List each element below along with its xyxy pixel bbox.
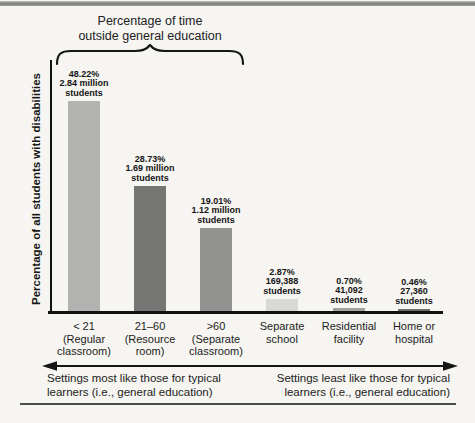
- curly-brace-path: [57, 45, 243, 64]
- bar-category-line: < 21: [57, 320, 111, 333]
- bar-value-line: students: [191, 216, 240, 226]
- bar-value-line: students: [59, 89, 108, 99]
- bar-category-label-4: Separateschool: [260, 320, 305, 345]
- bar-1: [68, 101, 100, 311]
- footer-right-line2: learners (i.e., general education): [277, 386, 450, 400]
- footer-caption-right: Settings least like those for typical le…: [277, 372, 450, 399]
- bar-2: [134, 186, 166, 311]
- bar-6: [398, 309, 430, 311]
- bar-value-label-6: 0.46%27,360students: [395, 278, 433, 307]
- bar-category-line: (Resource: [125, 333, 176, 346]
- brace-annotation-line1: Percentage of time: [78, 14, 221, 29]
- bar-value-line: students: [330, 296, 368, 306]
- bar-category-line: classroom): [189, 345, 243, 358]
- curly-brace: [55, 44, 245, 66]
- bar-category-line: 21–60: [125, 320, 176, 333]
- chart-figure: Percentage of time outside general educa…: [0, 0, 475, 423]
- bar-category-line: >60: [189, 320, 243, 333]
- bar-category-line: Residential: [322, 320, 376, 333]
- bar-value-label-1: 48.22%2.84 millionstudents: [59, 70, 108, 99]
- y-axis-line: [50, 60, 52, 314]
- bar-category-label-1: < 21(Regularclassroom): [57, 320, 111, 358]
- arrowhead-right-icon: [443, 361, 458, 371]
- bar-value-line: students: [263, 287, 301, 297]
- bar-category-line: Separate: [260, 320, 305, 333]
- bar-value-label-3: 19.01%1.12 millionstudents: [191, 197, 240, 226]
- bar-category-label-5: Residentialfacility: [322, 320, 376, 345]
- bar-category-line: (Regular: [57, 333, 111, 346]
- bar-category-label-3: >60(Separateclassroom): [189, 320, 243, 358]
- footer-left-line1: Settings most like those for typical: [47, 372, 221, 386]
- bar-category-line: (Separate: [189, 333, 243, 346]
- x-axis-line: [48, 311, 443, 314]
- footer-right-line1: Settings least like those for typical: [277, 372, 450, 386]
- bar-category-line: Home or: [393, 320, 435, 333]
- bar-value-line: students: [395, 297, 433, 307]
- arrowhead-left-icon: [42, 361, 57, 371]
- bar-5: [333, 308, 365, 311]
- bar-3: [200, 228, 232, 311]
- y-axis-title: Percentage of all students with disabili…: [30, 54, 42, 324]
- brace-annotation: Percentage of time outside general educa…: [78, 14, 221, 44]
- footer-caption-left: Settings most like those for typical lea…: [47, 372, 221, 399]
- page-top-band: [0, 1, 475, 6]
- bar-value-label-4: 2.87%169,388students: [263, 268, 301, 297]
- bar-category-line: classroom): [57, 345, 111, 358]
- bar-category-line: school: [260, 333, 305, 346]
- brace-annotation-line2: outside general education: [78, 29, 221, 44]
- bar-category-label-6: Home orhospital: [393, 320, 435, 345]
- footer-left-line2: learners (i.e., general education): [47, 386, 221, 400]
- bar-value-line: students: [125, 174, 174, 184]
- bar-category-line: room): [125, 345, 176, 358]
- bottom-rule: [20, 403, 456, 405]
- bar-category-label-2: 21–60(Resourceroom): [125, 320, 176, 358]
- bar-category-line: facility: [322, 333, 376, 346]
- bar-4: [266, 299, 298, 311]
- bar-value-label-2: 28.73%1.69 millionstudents: [125, 155, 174, 184]
- bar-category-line: hospital: [393, 333, 435, 346]
- bar-value-label-5: 0.70%41,092students: [330, 277, 368, 306]
